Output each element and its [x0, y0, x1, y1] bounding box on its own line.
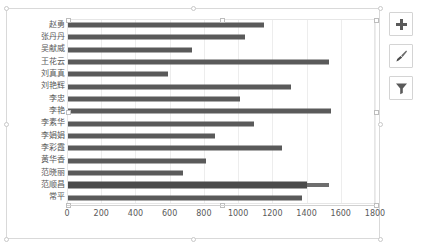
plot-area[interactable] — [67, 19, 375, 204]
brush-icon — [394, 49, 408, 63]
bar-row[interactable] — [67, 179, 375, 191]
tick-label: 200 — [94, 209, 109, 218]
bar[interactable] — [67, 195, 302, 200]
tick-label: 1800 — [365, 209, 385, 218]
bar-row[interactable] — [67, 93, 375, 105]
bar[interactable] — [67, 134, 215, 139]
category-label: 黄华香 — [13, 156, 65, 164]
bar-row[interactable] — [67, 105, 375, 117]
bar[interactable] — [67, 35, 245, 40]
bar-row[interactable] — [67, 155, 375, 167]
chart-elements-button[interactable] — [389, 12, 413, 36]
chart-resize-handle[interactable] — [191, 237, 196, 242]
filter-icon — [395, 82, 408, 95]
bar-row[interactable] — [67, 130, 375, 142]
bar[interactable] — [67, 47, 192, 52]
gridline-1800 — [375, 19, 376, 204]
category-label: 赵勇 — [13, 21, 65, 29]
chart-resize-handle[interactable] — [4, 122, 9, 127]
category-axis: 赵勇张丹丹吴献威王花云刘真真刘艳辉李忠李艳李素华李娟娟李彩霞黄华香范晓丽范顺昌常… — [13, 19, 65, 204]
bar-row[interactable] — [67, 118, 375, 130]
tick-label: 1400 — [296, 209, 316, 218]
chart-side-buttons — [389, 12, 415, 100]
chart-object[interactable]: 赵勇张丹丹吴献威王花云刘真真刘艳辉李忠李艳李素华李娟娟李彩霞黄华香范晓丽范顺昌常… — [6, 8, 380, 239]
category-label: 李娟娟 — [13, 132, 65, 140]
axis-line — [67, 205, 375, 206]
category-label: 刘艳辉 — [13, 82, 65, 90]
chart-resize-handle[interactable] — [378, 6, 383, 11]
chart-resize-handle[interactable] — [4, 237, 9, 242]
bar-row[interactable] — [67, 192, 375, 204]
chart-resize-handle[interactable] — [378, 122, 383, 127]
category-label: 李艳 — [13, 107, 65, 115]
bar-row[interactable] — [67, 56, 375, 68]
bar[interactable] — [67, 146, 282, 151]
category-label: 常平 — [13, 193, 65, 201]
bar[interactable] — [67, 60, 329, 65]
bar-row[interactable] — [67, 44, 375, 56]
tick-label: 800 — [196, 209, 211, 218]
plus-icon — [395, 18, 408, 31]
bar-row[interactable] — [67, 68, 375, 80]
bar[interactable] — [67, 84, 291, 89]
bar[interactable] — [67, 171, 183, 176]
bar-series[interactable] — [67, 19, 375, 204]
chart-filters-button[interactable] — [389, 76, 413, 100]
bar[interactable] — [67, 158, 206, 163]
bar-row[interactable] — [67, 19, 375, 31]
bar-row[interactable] — [67, 31, 375, 43]
tick-label: 1600 — [331, 209, 351, 218]
category-label: 吴献威 — [13, 45, 65, 53]
value-axis[interactable]: 020040060080010001200140016001800 — [67, 205, 375, 223]
bar[interactable] — [67, 23, 264, 28]
category-label: 李彩霞 — [13, 144, 65, 152]
chart-resize-handle[interactable] — [4, 6, 9, 11]
category-label: 王花云 — [13, 58, 65, 66]
bar[interactable] — [67, 72, 168, 77]
bar[interactable] — [67, 121, 254, 126]
tick-label: 0 — [64, 209, 69, 218]
chart-styles-button[interactable] — [389, 44, 413, 68]
tick-label: 1200 — [262, 209, 282, 218]
category-label: 刘真真 — [13, 70, 65, 78]
category-label: 范晓丽 — [13, 169, 65, 177]
category-label: 张丹丹 — [13, 33, 65, 41]
chart-resize-handle[interactable] — [191, 6, 196, 11]
chart-resize-handle[interactable] — [378, 237, 383, 242]
bar[interactable] — [67, 97, 240, 102]
category-label: 李素华 — [13, 119, 65, 127]
bar-row[interactable] — [67, 142, 375, 154]
tick-label: 600 — [162, 209, 177, 218]
bar-row[interactable] — [67, 167, 375, 179]
category-label: 李忠 — [13, 95, 65, 103]
tick-label: 1000 — [228, 209, 248, 218]
bar-row[interactable] — [67, 81, 375, 93]
category-label: 范顺昌 — [13, 181, 65, 189]
bar[interactable] — [67, 109, 331, 114]
tick-label: 400 — [128, 209, 143, 218]
bar-inner-selected[interactable] — [67, 182, 307, 189]
